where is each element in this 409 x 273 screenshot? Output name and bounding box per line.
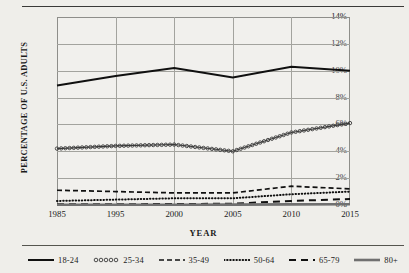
legend-label: 50-64 bbox=[254, 256, 275, 265]
series-lines bbox=[57, 17, 350, 205]
legend-label: 18-24 bbox=[58, 256, 79, 265]
legend-swatch-icon bbox=[224, 255, 250, 265]
legend-label: 25-34 bbox=[123, 256, 144, 265]
x-axis-tick-label: 2015 bbox=[328, 209, 372, 219]
legend-item-35-49[interactable]: 35-49 bbox=[159, 255, 210, 265]
series-line-80+ bbox=[57, 204, 350, 205]
legend-item-80+[interactable]: 80+ bbox=[354, 255, 398, 265]
legend-swatch-icon bbox=[93, 255, 119, 265]
plot-area bbox=[57, 17, 350, 205]
legend-swatch-icon bbox=[28, 255, 54, 265]
legend-swatch-icon bbox=[159, 255, 185, 265]
legend-label: 35-49 bbox=[189, 256, 210, 265]
chart-legend: 18-2425-3435-4950-6465-7980+ bbox=[22, 250, 404, 270]
x-axis-tick-label: 2010 bbox=[269, 209, 313, 219]
legend-divider-rule bbox=[22, 245, 404, 246]
x-axis-tick-label: 1985 bbox=[35, 209, 79, 219]
legend-item-18-24[interactable]: 18-24 bbox=[28, 255, 79, 265]
legend-label: 80+ bbox=[384, 256, 398, 265]
series-line-35-49 bbox=[57, 186, 350, 193]
series-line-18-24 bbox=[57, 67, 350, 86]
x-axis-tick-label: 1995 bbox=[94, 209, 138, 219]
x-axis-tick-label: 2000 bbox=[152, 209, 196, 219]
y-axis-title: PERCENTAGE OF U.S. ADULTS bbox=[20, 8, 29, 208]
x-axis-title: YEAR bbox=[57, 228, 350, 238]
x-axis-tick-label: 2005 bbox=[211, 209, 255, 219]
chart-figure: PERCENTAGE OF U.S. ADULTS 0%2%4%6%8%10%1… bbox=[0, 0, 409, 273]
legend-swatch-icon bbox=[289, 255, 315, 265]
legend-item-50-64[interactable]: 50-64 bbox=[224, 255, 275, 265]
legend-item-65-79[interactable]: 65-79 bbox=[289, 255, 340, 265]
legend-item-25-34[interactable]: 25-34 bbox=[93, 255, 144, 265]
top-divider-rule bbox=[22, 6, 404, 7]
legend-swatch-icon bbox=[354, 255, 380, 265]
legend-label: 65-79 bbox=[319, 256, 340, 265]
